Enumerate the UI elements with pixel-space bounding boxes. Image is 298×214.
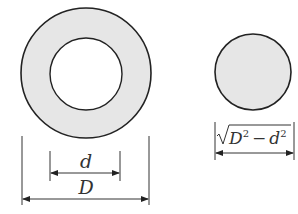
inner-circle [50,38,122,110]
annulus-area-diagram: D d D2−d2 [0,0,298,214]
equivalent-diameter-dimension: D2−d2 [215,122,294,160]
inner-diameter-label: d [80,150,92,172]
annulus-figure [21,8,151,138]
equivalent-circle-figure [215,34,291,110]
equivalent-circle [215,34,291,110]
equivalent-diameter-label: D2−d2 [228,128,287,148]
outer-diameter-label: D [77,176,93,198]
